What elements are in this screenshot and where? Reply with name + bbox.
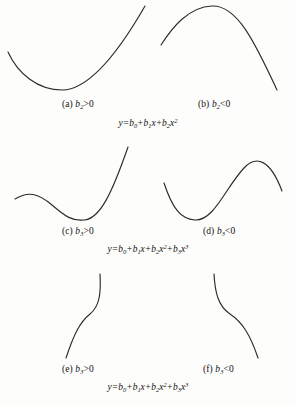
curve-panel-f [188, 272, 288, 360]
panel-label-f-prefix: (f) [203, 364, 213, 374]
curve-upward-parabola [8, 6, 145, 90]
curve-panel-d [158, 143, 294, 227]
curve-cubic-decreasing [164, 161, 282, 220]
panel-label-f: (f) b3<0 [203, 364, 234, 375]
curve-cubic-increasing [15, 147, 128, 220]
panel-label-e-prefix: (e) [62, 364, 73, 374]
equation-cubic-second: y=b0+b1x+b2x2+b3x3 [0, 381, 296, 393]
curve-steep-increasing-cubic [66, 274, 100, 358]
panel-label-b: (b) b2<0 [198, 99, 230, 110]
panel-label-b-relation: <0 [220, 99, 230, 109]
panel-label-f-relation: <0 [223, 364, 233, 374]
panel-label-a-prefix: (a) [62, 99, 73, 109]
panel-label-e: (e) b3>0 [62, 364, 94, 375]
equation-cubic-first: y=b0+b1x+b2x2+b3x3 [0, 243, 296, 255]
curve-panel-c [12, 143, 146, 227]
curve-downward-parabola [161, 6, 277, 90]
panel-label-c: (c) b3>0 [62, 226, 94, 237]
curve-panel-a [4, 2, 152, 96]
polynomial-curve-figure: (a) b2>0 (b) b2<0 y=b0+b1x+b2x2 (c) b3>0… [0, 0, 296, 406]
panel-label-d: (d) b3<0 [203, 226, 235, 237]
curve-steep-decreasing-cubic [214, 274, 258, 358]
panel-label-d-prefix: (d) [203, 226, 214, 236]
panel-label-c-prefix: (c) [62, 226, 73, 236]
panel-label-c-relation: >0 [83, 226, 93, 236]
panel-label-a-relation: >0 [83, 99, 93, 109]
curve-panel-b [158, 2, 294, 96]
equation-quadratic: y=b0+b1x+b2x2 [0, 117, 296, 129]
panel-label-e-relation: >0 [83, 364, 93, 374]
curve-panel-e [52, 272, 148, 360]
panel-label-b-prefix: (b) [198, 99, 209, 109]
panel-label-a: (a) b2>0 [62, 99, 94, 110]
panel-label-d-relation: <0 [225, 226, 235, 236]
